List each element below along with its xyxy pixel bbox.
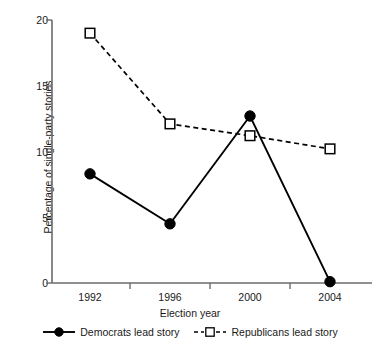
data-point-rep-1992 bbox=[85, 28, 95, 38]
legend-label-republicans: Republicans lead story bbox=[231, 326, 337, 338]
filled-circle-icon bbox=[42, 326, 76, 338]
x-tick-label-2004: 2004 bbox=[307, 291, 353, 303]
data-point-rep-2004 bbox=[325, 144, 335, 154]
series-republicans bbox=[85, 28, 335, 153]
plot-area bbox=[0, 0, 380, 300]
data-point-dem-2000 bbox=[245, 111, 255, 121]
y-axis-ticks bbox=[46, 20, 52, 283]
republicans-line bbox=[90, 33, 330, 149]
legend-label-democrats: Democrats lead story bbox=[80, 326, 179, 338]
republicans-markers bbox=[85, 28, 335, 153]
legend-item-republicans: Republicans lead story bbox=[193, 326, 337, 338]
data-point-dem-2004 bbox=[325, 276, 335, 286]
democrats-markers bbox=[85, 111, 335, 287]
x-tick-label-1992: 1992 bbox=[67, 291, 113, 303]
x-axis-ticks bbox=[130, 283, 290, 289]
data-point-rep-2000 bbox=[245, 131, 255, 141]
x-axis-tick-labels: 1992 1996 2000 2004 bbox=[0, 291, 380, 307]
legend-item-democrats: Democrats lead story bbox=[42, 326, 179, 338]
x-tick-label-1996: 1996 bbox=[147, 291, 193, 303]
series-democrats bbox=[85, 111, 335, 287]
data-point-rep-1996 bbox=[165, 119, 175, 129]
x-tick-label-2000: 2000 bbox=[227, 291, 273, 303]
chart-figure: Percentage of single-party stories 20 15… bbox=[0, 0, 380, 349]
x-axis-title: Election year bbox=[0, 307, 380, 319]
democrats-line bbox=[90, 116, 330, 282]
open-square-icon bbox=[193, 326, 227, 338]
data-point-dem-1996 bbox=[165, 219, 175, 229]
data-point-dem-1992 bbox=[85, 169, 95, 179]
chart-legend: Democrats lead story Republicans lead st… bbox=[0, 326, 380, 338]
